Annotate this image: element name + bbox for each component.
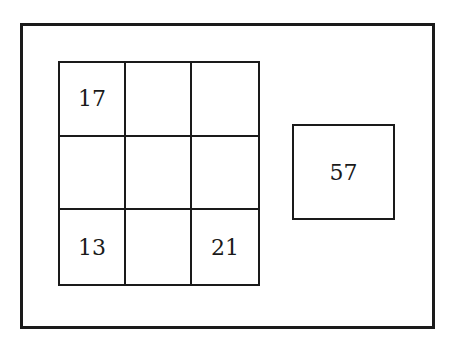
target-sum-box: 57 [292,124,395,220]
grid-cell-r3c1: 13 [60,210,126,284]
grid-cell-r3c2 [126,210,192,284]
grid-cell-r1c1: 17 [60,63,126,137]
number-grid: 17 13 21 [58,61,260,286]
grid-cell-r2c3 [192,137,258,211]
grid-cell-r1c3 [192,63,258,137]
grid-cell-r2c1 [60,137,126,211]
grid-cell-r1c2 [126,63,192,137]
grid-cell-r2c2 [126,137,192,211]
grid-cell-r3c3: 21 [192,210,258,284]
